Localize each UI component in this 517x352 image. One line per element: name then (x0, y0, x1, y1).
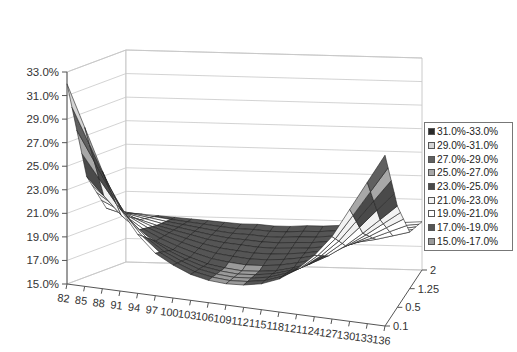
legend-label: 29.0%-31.0% (437, 140, 498, 151)
legend-item: 29.0%-31.0% (428, 139, 510, 153)
category-tick-label: 124 (301, 324, 321, 338)
series-axis-labels: 0.10.51.252 (393, 264, 439, 332)
legend-swatch (428, 210, 435, 217)
legend-swatch (428, 169, 435, 176)
category-tick-label: 136 (372, 333, 392, 347)
category-tick-label: 100 (160, 305, 180, 319)
legend-label: 21.0%-23.0% (437, 195, 498, 206)
legend-item: 21.0%-23.0% (428, 193, 510, 207)
legend-label: 31.0%-33.0% (437, 126, 498, 137)
legend-swatch (428, 197, 435, 204)
category-tick-label: 130 (336, 328, 356, 342)
legend-swatch (428, 238, 435, 245)
legend-swatch (428, 128, 435, 135)
legend-label: 25.0%-27.0% (437, 167, 498, 178)
legend-item: 23.0%-25.0% (428, 180, 510, 194)
legend-swatch (428, 156, 435, 163)
legend-swatch (428, 142, 435, 149)
legend-item: 27.0%-29.0% (428, 152, 510, 166)
category-tick-label: 115 (248, 317, 267, 331)
category-tick-label: 85 (74, 294, 88, 307)
value-tick-label: 17.0% (26, 254, 59, 266)
legend-label: 15.0%-17.0% (437, 236, 498, 247)
category-tick-label: 82 (57, 291, 71, 304)
series-tick-label: 1.25 (418, 283, 439, 295)
value-axis-labels: 33.0%31.0%29.0%27.0%25.0%23.0%21.0%19.0%… (26, 66, 59, 290)
category-tick-label: 127 (319, 326, 339, 340)
legend-item: 19.0%-21.0% (428, 207, 510, 221)
category-tick-label: 112 (231, 314, 250, 328)
legend-swatch (428, 224, 435, 231)
value-tick-label: 27.0% (26, 137, 59, 149)
legend-item: 31.0%-33.0% (428, 125, 510, 139)
category-tick-label: 121 (283, 321, 303, 335)
legend-label: 23.0%-25.0% (437, 181, 498, 192)
legend-item: 15.0%-17.0% (428, 235, 510, 249)
legend-label: 19.0%-21.0% (437, 208, 498, 219)
legend-label: 17.0%-19.0% (437, 222, 498, 233)
series-axis-line (385, 270, 422, 326)
category-tick-label: 88 (92, 296, 106, 309)
value-tick-label: 15.0% (26, 278, 59, 290)
category-tick-label: 109 (213, 312, 233, 326)
value-tick-label: 23.0% (26, 184, 59, 196)
series-tick-label: 2 (430, 264, 436, 276)
value-tick-label: 25.0% (26, 160, 59, 172)
category-tick-label: 106 (195, 310, 215, 324)
series-tick-label: 0.1 (393, 320, 408, 332)
value-tick-label: 29.0% (26, 113, 59, 125)
category-tick-label: 97 (145, 303, 159, 316)
category-tick-label: 103 (177, 307, 197, 321)
category-tick-label: 133 (354, 331, 374, 345)
legend-swatch (428, 183, 435, 190)
series-tick-label: 0.5 (405, 301, 420, 313)
value-tick-label: 33.0% (26, 66, 59, 78)
value-tick-label: 21.0% (26, 207, 59, 219)
value-tick-label: 31.0% (26, 90, 59, 102)
legend-label: 27.0%-29.0% (437, 154, 498, 165)
legend: 31.0%-33.0%29.0%-31.0%27.0%-29.0%25.0%-2… (424, 122, 513, 251)
category-tick-label: 91 (110, 298, 124, 311)
legend-item: 25.0%-27.0% (428, 166, 510, 180)
value-tick-label: 19.0% (26, 231, 59, 243)
legend-item: 17.0%-19.0% (428, 221, 510, 235)
category-tick-label: 118 (266, 319, 285, 333)
category-axis-labels: 8285889194971001031061091121151181211241… (57, 291, 392, 347)
category-tick-label: 94 (127, 301, 141, 314)
